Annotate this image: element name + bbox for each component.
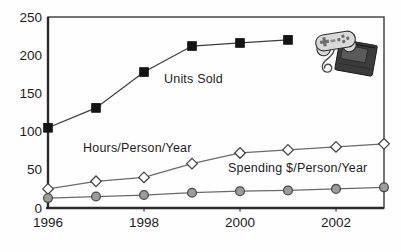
marker-diamond-hours-per-person-year bbox=[91, 176, 102, 187]
marker-diamond-hours-per-person-year bbox=[283, 145, 294, 156]
marker-square-units-sold bbox=[236, 39, 245, 48]
marker-diamond-hours-per-person-year bbox=[43, 184, 54, 195]
y-tick-label: 150 bbox=[19, 86, 42, 101]
x-tick-label: 2000 bbox=[225, 215, 255, 230]
marker-square-units-sold bbox=[140, 68, 149, 77]
marker-circle-spending-per-person-year bbox=[332, 185, 341, 194]
marker-square-units-sold bbox=[92, 104, 101, 113]
x-tick-label: 1998 bbox=[129, 215, 159, 230]
chart-canvas: 0501001502002501996199820002002 bbox=[0, 0, 401, 252]
marker-circle-spending-per-person-year bbox=[188, 188, 197, 197]
x-tick-label: 1996 bbox=[33, 215, 63, 230]
marker-circle-spending-per-person-year bbox=[140, 191, 149, 200]
marker-diamond-hours-per-person-year bbox=[139, 172, 150, 183]
x-tick-label: 2002 bbox=[321, 215, 351, 230]
marker-diamond-hours-per-person-year bbox=[379, 139, 390, 150]
marker-square-units-sold bbox=[284, 36, 293, 45]
marker-circle-spending-per-person-year bbox=[284, 186, 293, 195]
y-tick-label: 0 bbox=[34, 201, 42, 216]
marker-square-units-sold bbox=[44, 123, 53, 132]
marker-circle-spending-per-person-year bbox=[44, 194, 53, 203]
y-tick-label: 200 bbox=[19, 48, 42, 63]
y-tick-label: 250 bbox=[19, 10, 42, 25]
series-label-spending-per-person-year: Spending $/Person/Year bbox=[228, 161, 367, 175]
marker-circle-spending-per-person-year bbox=[236, 187, 245, 196]
marker-circle-spending-per-person-year bbox=[380, 183, 389, 192]
marker-diamond-hours-per-person-year bbox=[331, 142, 342, 153]
game-controller-clipart bbox=[315, 30, 378, 76]
series-label-units-sold: Units Sold bbox=[164, 72, 223, 86]
series-label-hours-per-person-year: Hours/Person/Year bbox=[83, 141, 192, 155]
marker-diamond-hours-per-person-year bbox=[187, 158, 198, 169]
y-tick-label: 50 bbox=[27, 162, 42, 177]
marker-square-units-sold bbox=[188, 42, 197, 51]
marker-diamond-hours-per-person-year bbox=[235, 148, 246, 159]
marker-circle-spending-per-person-year bbox=[92, 192, 101, 201]
y-tick-label: 100 bbox=[19, 124, 42, 139]
chart: 0501001502002501996199820002002 bbox=[0, 0, 401, 252]
